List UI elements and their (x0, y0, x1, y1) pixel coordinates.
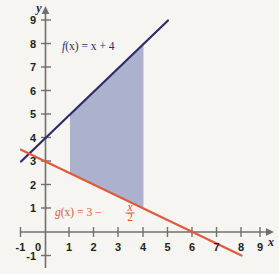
x-axis-name: x (267, 235, 274, 249)
y-tick-label: 3 (30, 155, 36, 167)
x-tick-label: 1 (66, 241, 72, 253)
shaded-region (70, 44, 144, 209)
g-label-body: (x) = 3 − (61, 206, 102, 219)
y-tick-label: 2 (30, 179, 36, 191)
g-fraction-denominator: 2 (127, 211, 133, 223)
f-label-body: (x) = x + 4 (65, 40, 115, 53)
function-label-f: f(x) = x + 4 (62, 40, 115, 53)
y-axis-name: y (34, 1, 42, 15)
y-tick-label: 4 (30, 132, 37, 144)
x-tick-label: 2 (90, 241, 96, 253)
function-label-g: g(x) = 3 − x 2 (55, 201, 135, 223)
figure-canvas: -1 0 1 2 3 4 5 6 7 8 9 9 8 7 6 5 4 3 2 1… (0, 0, 279, 274)
x-axis (20, 227, 274, 237)
svg-text:f(x) = x + 4: f(x) = x + 4 (62, 40, 115, 53)
y-tick-label: 8 (30, 38, 36, 50)
x-tick-label: 4 (140, 241, 147, 253)
y-tick-label: 7 (30, 61, 36, 73)
x-tick-label: 8 (238, 241, 244, 253)
y-tick-label: 6 (30, 85, 36, 97)
svg-text:g(x) = 3 −: g(x) = 3 − (55, 206, 102, 219)
x-tick-label: 3 (115, 241, 121, 253)
x-tick-label: 5 (164, 241, 170, 253)
y-tick-label: 1 (30, 202, 36, 214)
x-tick-label: 6 (189, 241, 195, 253)
y-tick-label: -1 (26, 250, 36, 262)
y-tick-labels: 9 8 7 6 5 4 3 2 1 -1 (26, 14, 37, 262)
y-tick-label: 9 (30, 14, 36, 26)
x-tick-label: -1 (16, 241, 26, 253)
x-tick-label: 7 (213, 241, 219, 253)
x-tick-label: 9 (257, 241, 263, 253)
y-tick-label: 5 (30, 108, 36, 120)
coordinate-plane-plot: -1 0 1 2 3 4 5 6 7 8 9 9 8 7 6 5 4 3 2 1… (0, 0, 279, 274)
